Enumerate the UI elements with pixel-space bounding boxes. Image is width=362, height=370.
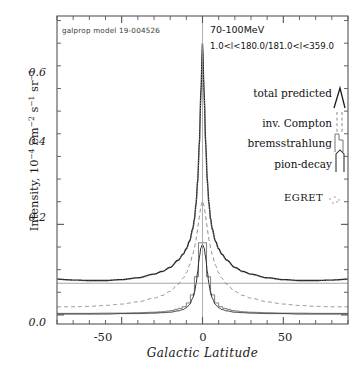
- legend-sample-marks: [334, 88, 345, 172]
- egret-label: EGRET: [284, 192, 323, 203]
- egret-point: [334, 196, 336, 198]
- egret-point: [329, 198, 331, 200]
- model-label: galprop model 19-004526: [62, 26, 160, 35]
- egret-point: [332, 202, 334, 204]
- legend-label-inv-compton: inv. Compton: [190, 117, 332, 129]
- legend-mark-total-predicted: [334, 88, 345, 108]
- x-tick-label-2: 50: [265, 330, 305, 344]
- egret-point: [336, 201, 338, 203]
- legend-label-bremsstrahlung: bremsstrahlung: [190, 137, 332, 149]
- y-tick-label-3: 0.6: [12, 66, 46, 79]
- longitude-range-label: 1.0<l<180.0/181.0<l<359.0: [210, 41, 334, 51]
- legend-label-total-predicted: total predicted: [190, 87, 332, 99]
- plot-canvas: [0, 0, 362, 370]
- legend-mark-inv-compton: [337, 112, 342, 132]
- y-tick-label-1: 0.2: [12, 211, 46, 224]
- x-axis-label: Galactic Latitude: [57, 346, 348, 360]
- egret-point: [338, 199, 340, 201]
- x-tick-label-0: -50: [83, 330, 123, 344]
- y-tick-label-2: 0.4: [12, 135, 46, 148]
- y-tick-label-0: 0.0: [12, 316, 46, 329]
- x-tick-label-1: 0: [183, 330, 223, 344]
- egret-data-marker: [329, 196, 340, 204]
- figure-panel: Intensity, 10−4 cm−2 s−1 sr−1 Galactic L…: [0, 0, 362, 370]
- legend-mark-pion-decay: [336, 150, 344, 172]
- legend-label-pion-decay: pion-decay: [190, 158, 332, 170]
- legend-mark-bremsstrahlung: [335, 134, 343, 152]
- energy-band-label: 70-100MeV: [210, 24, 264, 35]
